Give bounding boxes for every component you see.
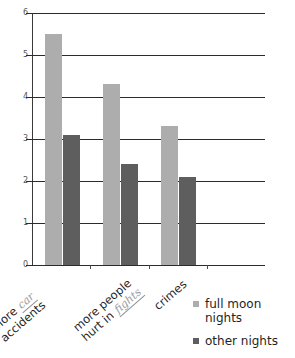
y-tick-mark	[26, 13, 32, 14]
y-tick-label: 6	[6, 9, 28, 17]
bar-full-moon-1	[103, 84, 120, 265]
legend-swatch	[193, 338, 199, 344]
legend-swatch	[193, 301, 199, 307]
y-tick-label: 4	[6, 93, 28, 101]
y-tick-label: 5	[6, 51, 28, 59]
category-label-car-accidents: more car accidents	[0, 288, 48, 344]
legend-label: full moon nights	[205, 297, 283, 325]
category-label-people-hurt-in-fights: more people hurt in fights	[71, 275, 145, 344]
y-tick-label: 3	[6, 135, 28, 143]
bar-full-moon-0	[45, 34, 62, 265]
y-tick-label: 1	[6, 219, 28, 227]
y-tick-mark	[26, 139, 32, 140]
y-tick-mark	[26, 265, 32, 266]
x-axis-separator	[90, 265, 91, 269]
gridline-6	[32, 13, 265, 14]
legend-item-full-moon-nights[interactable]: full moon nights	[193, 297, 293, 325]
bar-full-moon-2	[161, 126, 178, 265]
legend: full moon nightsother nights	[193, 297, 293, 357]
legend-item-other-nights[interactable]: other nights	[193, 334, 293, 348]
y-tick-label: 0	[6, 261, 28, 269]
legend-label: other nights	[205, 334, 278, 348]
category-label-line-1: crimes	[152, 278, 189, 313]
x-axis-separator	[149, 265, 150, 269]
gridline-4	[32, 97, 265, 98]
bar-chart: 6543210 more car accidents more people h…	[0, 0, 295, 358]
bar-other-2	[179, 177, 196, 265]
category-label-crimes: crimes	[152, 278, 189, 313]
bar-other-0	[63, 135, 80, 265]
y-tick-mark	[26, 97, 32, 98]
y-tick-mark	[26, 181, 32, 182]
y-tick-label: 2	[6, 177, 28, 185]
gridline-5	[32, 55, 265, 56]
plot-area	[32, 13, 265, 265]
bar-other-1	[121, 164, 138, 265]
y-tick-mark	[26, 55, 32, 56]
x-axis-separator	[207, 265, 208, 269]
y-tick-mark	[26, 223, 32, 224]
